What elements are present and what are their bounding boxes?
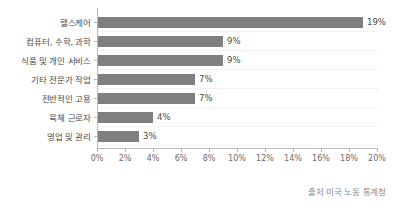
x-axis-tick-label: 4% [140,154,166,164]
x-axis-tick [293,149,294,152]
x-axis-tick-label: 0% [84,154,110,164]
bar-track: 7% [97,89,377,108]
bar-track: 3% [97,127,377,146]
bar-row: 식품 및 개인 서비스9% [0,51,398,70]
bar [97,131,139,142]
x-axis-tick [237,149,238,152]
bar-row: 컴퓨터, 수학, 과학9% [0,32,398,51]
x-axis-tick-label: 2% [112,154,138,164]
x-axis-tick [181,149,182,152]
x-axis-tick-label: 6% [168,154,194,164]
bar-row: 전반적인 고용7% [0,89,398,108]
category-label: 기타 전문가 작업 [0,75,91,85]
x-axis-tick-label: 16% [308,154,334,164]
x-axis-tick-label: 14% [280,154,306,164]
x-axis-tick [377,149,378,152]
bar-value-label: 9% [227,36,241,47]
category-label: 컴퓨터, 수학, 과학 [0,37,91,47]
bar-track: 7% [97,70,377,89]
bar-track: 4% [97,108,377,127]
row-separator [97,145,378,146]
x-axis-tick-label: 10% [224,154,250,164]
bar-value-label: 3% [143,131,157,142]
bar-value-label: 9% [227,55,241,66]
bar-row: 영업 및 관리3% [0,127,398,146]
category-label: 육체 근로자 [0,113,91,123]
bar [97,93,195,104]
bar-value-label: 7% [199,93,213,104]
category-label: 헬스케어 [0,18,91,28]
bar-track: 19% [97,13,377,32]
bar-chart: 헬스케어19%컴퓨터, 수학, 과학9%식품 및 개인 서비스9%기타 전문가 … [0,0,398,208]
bar [97,55,223,66]
x-axis-tick [153,149,154,152]
x-axis-tick-label: 8% [196,154,222,164]
bar [97,17,363,28]
bar-track: 9% [97,51,377,70]
plot-area: 헬스케어19%컴퓨터, 수학, 과학9%식품 및 개인 서비스9%기타 전문가 … [0,8,398,158]
bar [97,36,223,47]
bar-value-label: 7% [199,74,213,85]
x-axis-tick [209,149,210,152]
category-label: 전반적인 고용 [0,94,91,104]
bar-row: 육체 근로자4% [0,108,398,127]
x-axis-tick [265,149,266,152]
bar-value-label: 4% [157,112,171,123]
x-axis-tick [349,149,350,152]
x-axis-tick-label: 12% [252,154,278,164]
x-axis-tick [97,149,98,152]
bar-track: 9% [97,32,377,51]
x-axis-tick-label: 20% [364,154,390,164]
source-note: 출처 미국 노동 통계청 [308,187,386,198]
x-axis-tick [321,149,322,152]
category-label: 영업 및 관리 [0,132,91,142]
category-label: 식품 및 개인 서비스 [0,56,91,66]
bar [97,112,153,123]
bar-rows: 헬스케어19%컴퓨터, 수학, 과학9%식품 및 개인 서비스9%기타 전문가 … [0,8,398,148]
bar-value-label: 19% [367,17,386,28]
x-axis-tick-label: 18% [336,154,362,164]
x-axis-tick [125,149,126,152]
y-axis-line [97,8,98,148]
bar-row: 기타 전문가 작업7% [0,70,398,89]
bar-row: 헬스케어19% [0,13,398,32]
bar [97,74,195,85]
